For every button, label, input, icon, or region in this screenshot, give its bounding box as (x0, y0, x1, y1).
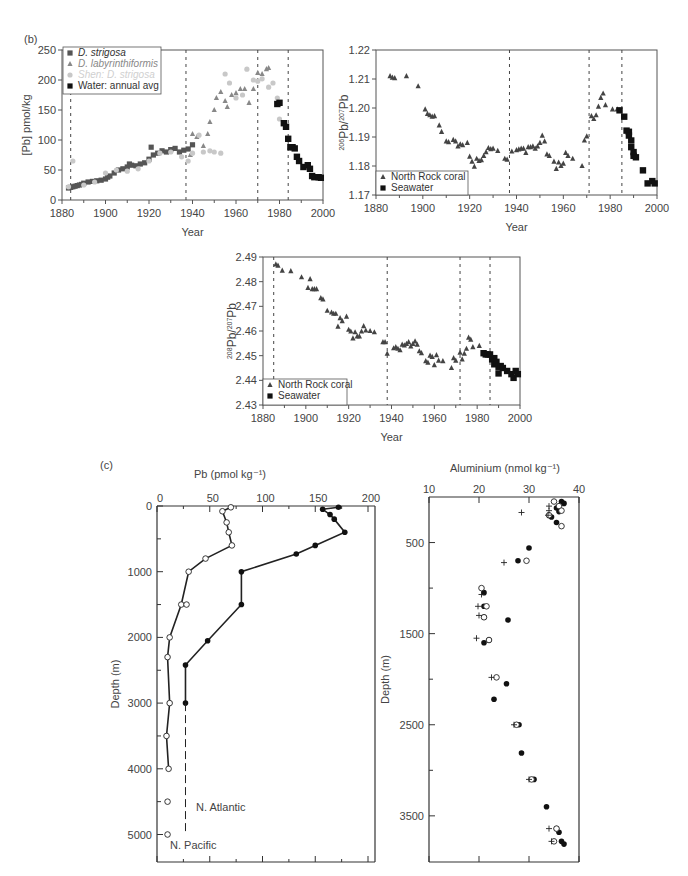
x-tick-label: 40 (573, 483, 585, 495)
x-tick-label: 1960 (551, 202, 575, 214)
y-tick-label: 2.49 (236, 251, 257, 263)
y-tick-label: 4000 (128, 763, 152, 775)
data-point (423, 106, 428, 111)
data-point (207, 148, 212, 153)
data-point (467, 154, 472, 159)
data-point (251, 86, 256, 91)
data-point (299, 274, 304, 279)
data-point (331, 516, 337, 522)
data-point (233, 90, 238, 95)
y-tick-label: 2500 (400, 719, 424, 731)
data-point (584, 133, 589, 138)
data-point (266, 85, 271, 90)
data-point (207, 119, 212, 124)
data-point (292, 145, 298, 151)
data-point (434, 352, 439, 357)
data-point (440, 358, 445, 363)
data-point (288, 268, 293, 273)
legend-entry: D. strigosa (78, 47, 126, 58)
data-point (601, 90, 606, 95)
data-point (470, 344, 475, 349)
data-point (464, 346, 469, 351)
data-point (186, 158, 191, 163)
data-point (372, 329, 377, 334)
y-tick-label: 1500 (400, 628, 424, 640)
legend-entry: Shen: D. strigosa (78, 69, 155, 80)
y-tick-label: 250 (38, 44, 56, 56)
series-north-rock-coral (387, 73, 619, 171)
data-point (495, 148, 500, 153)
data-point (146, 158, 151, 163)
data-point (540, 132, 545, 137)
data-point (165, 654, 171, 660)
data-point (416, 83, 421, 88)
x-tick-label: 1940 (504, 202, 528, 214)
data-point (223, 71, 228, 76)
x-tick-label: 1880 (251, 412, 275, 424)
data-point (554, 520, 560, 526)
x-tick-label: 100 (256, 492, 274, 504)
data-point (214, 95, 219, 100)
data-point (228, 505, 234, 511)
y-tick-label: 50 (44, 164, 56, 176)
data-point (246, 100, 251, 105)
data-point (515, 371, 521, 377)
data-point (179, 154, 184, 159)
data-point (218, 89, 223, 94)
data-point (186, 569, 192, 575)
series-filled (481, 499, 567, 847)
x-tick-label: 1920 (457, 202, 481, 214)
data-point (167, 635, 173, 641)
x-tick-label: 1900 (93, 207, 117, 219)
data-point (359, 328, 364, 333)
y-tick-label: 2.48 (236, 276, 257, 288)
data-point (350, 335, 355, 340)
y-tick-label: 1.22 (349, 44, 370, 56)
data-point (559, 508, 565, 514)
data-point (559, 523, 565, 529)
chart-pb208-207: 18801900192019401960198020002.432.442.45… (225, 251, 532, 443)
data-point (260, 76, 265, 81)
data-point (504, 681, 510, 687)
data-point (149, 145, 154, 150)
data-point (184, 602, 190, 608)
data-point (462, 351, 467, 356)
series-plus (474, 503, 555, 844)
data-point (519, 750, 525, 756)
data-point (477, 343, 482, 348)
data-point (335, 323, 340, 328)
data-point (489, 674, 495, 680)
y-tick-label: 0 (50, 194, 56, 206)
data-point (361, 323, 366, 328)
legend-entry: North Rock coral (391, 171, 465, 182)
data-point (220, 508, 226, 514)
x-tick-label: 1900 (411, 202, 435, 214)
data-point (404, 73, 409, 78)
data-point (212, 149, 217, 154)
data-point (218, 151, 223, 156)
y-axis-label: [Pb] pmol/kg (20, 94, 32, 155)
legend: D. strigosaD. labyrinthiformisShen: D. s… (63, 47, 161, 94)
data-point (479, 585, 485, 591)
x-tick-label: 1880 (50, 207, 74, 219)
data-point (225, 104, 230, 109)
data-point (125, 169, 130, 174)
y-tick-label: 2.43 (236, 399, 257, 411)
data-point (633, 154, 639, 160)
data-point (651, 180, 657, 186)
data-point (519, 509, 525, 515)
chart-pb206-207: 18801900192019401960198020001.171.181.19… (337, 44, 669, 233)
x-tick-label: 200 (362, 492, 380, 504)
data-point (308, 276, 313, 281)
data-point (481, 614, 487, 620)
data-point (238, 86, 243, 91)
data-point (380, 185, 385, 190)
annotation-n-atlantic: N. Atlantic (196, 801, 246, 813)
data-point (296, 158, 302, 164)
data-point (556, 159, 561, 164)
data-point (561, 841, 567, 847)
data-point (233, 95, 238, 100)
data-point (570, 156, 575, 161)
y-axis-label: Depth (m) (109, 660, 121, 709)
charts-canvas: 1880190019201940196019802000050100150200… (0, 0, 688, 876)
